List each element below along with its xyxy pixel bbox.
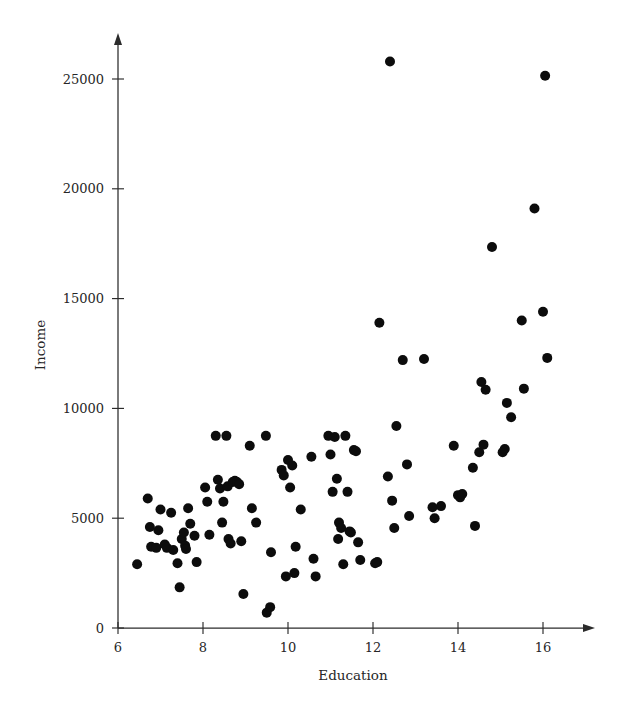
scatter-point xyxy=(419,354,429,364)
scatter-point xyxy=(251,518,261,528)
scatter-point xyxy=(387,496,397,506)
scatter-point xyxy=(530,204,540,214)
scatter-point xyxy=(156,504,166,514)
scatter-point xyxy=(340,431,350,441)
scatter-point xyxy=(183,503,193,513)
scatter-point xyxy=(517,316,527,326)
scatter-point xyxy=(346,527,356,537)
scatter-point xyxy=(385,56,395,66)
scatter-point xyxy=(470,521,480,531)
scatter-point xyxy=(218,497,228,507)
scatter-point xyxy=(372,557,382,567)
y-tick-label: 0 xyxy=(96,621,104,636)
x-tick-label: 16 xyxy=(535,640,552,655)
scatter-point xyxy=(391,421,401,431)
scatter-point xyxy=(192,557,202,567)
scatter-point xyxy=(287,461,297,471)
scatter-point xyxy=(502,398,512,408)
scatter-point xyxy=(402,459,412,469)
scatter-point xyxy=(238,589,248,599)
scatter-point xyxy=(309,554,319,564)
scatter-point xyxy=(306,452,316,462)
scatter-point xyxy=(151,543,161,553)
scatter-point xyxy=(479,440,489,450)
scatter-point xyxy=(428,502,438,512)
scatter-point xyxy=(374,318,384,328)
scatter-point xyxy=(204,530,214,540)
scatter-point xyxy=(311,571,321,581)
y-tick-label: 10000 xyxy=(63,401,104,416)
scatter-point xyxy=(291,542,301,552)
x-tick-label: 12 xyxy=(365,640,382,655)
scatter-point xyxy=(330,432,340,442)
scatter-point xyxy=(430,513,440,523)
y-tick-label: 15000 xyxy=(63,291,104,306)
scatter-point xyxy=(500,444,510,454)
scatter-point xyxy=(173,558,183,568)
scatter-point xyxy=(338,559,348,569)
scatter-point xyxy=(333,534,343,544)
x-tick-label: 10 xyxy=(280,640,297,655)
scatter-point xyxy=(226,538,236,548)
scatter-point xyxy=(355,555,365,565)
scatter-point xyxy=(538,307,548,317)
scatter-point xyxy=(145,522,155,532)
scatter-point xyxy=(200,482,210,492)
scatter-point xyxy=(296,504,306,514)
scatter-point xyxy=(179,527,189,537)
scatter-point xyxy=(404,511,414,521)
scatter-point xyxy=(247,503,257,513)
scatter-point xyxy=(353,537,363,547)
y-axis-title: Income xyxy=(32,320,48,371)
scatter-point xyxy=(285,482,295,492)
x-axis-title: Education xyxy=(318,667,388,683)
x-tick-label: 14 xyxy=(450,640,467,655)
scatter-point xyxy=(221,431,231,441)
scatter-point xyxy=(213,475,223,485)
x-axis-arrow-icon xyxy=(583,624,595,632)
scatter-point xyxy=(289,568,299,578)
scatter-point xyxy=(436,501,446,511)
scatter-point xyxy=(234,479,244,489)
scatter-point xyxy=(398,355,408,365)
scatter-point xyxy=(166,508,176,518)
scatter-point xyxy=(202,497,212,507)
y-tick-label: 25000 xyxy=(63,72,104,87)
scatter-point xyxy=(211,431,221,441)
scatter-point xyxy=(332,474,342,484)
scatter-point xyxy=(279,470,289,480)
scatter-point xyxy=(281,571,291,581)
data-points-layer xyxy=(132,56,552,617)
scatter-point xyxy=(519,384,529,394)
scatter-point xyxy=(540,71,550,81)
y-tick-label: 20000 xyxy=(63,181,104,196)
scatter-point xyxy=(468,463,478,473)
plot-canvas: 0500010000150002000025000 6810121416 Edu… xyxy=(0,0,617,728)
scatter-point xyxy=(383,471,393,481)
scatter-point xyxy=(153,525,163,535)
x-tick-label: 6 xyxy=(114,640,122,655)
scatter-point xyxy=(481,385,491,395)
x-tick-label: 8 xyxy=(199,640,207,655)
scatter-point xyxy=(175,582,185,592)
scatter-point xyxy=(261,431,271,441)
x-axis-ticks: 6810121416 xyxy=(114,622,551,655)
scatter-point xyxy=(487,242,497,252)
scatter-point xyxy=(326,450,336,460)
y-axis-arrow-icon xyxy=(114,33,122,45)
scatter-point xyxy=(265,602,275,612)
scatter-point xyxy=(457,489,467,499)
scatter-point xyxy=(506,412,516,422)
scatter-point xyxy=(266,547,276,557)
scatter-point xyxy=(181,544,191,554)
scatter-point xyxy=(132,559,142,569)
y-tick-label: 5000 xyxy=(71,511,104,526)
scatter-point xyxy=(328,487,338,497)
scatter-point xyxy=(190,531,200,541)
scatter-point xyxy=(168,545,178,555)
scatter-point xyxy=(143,493,153,503)
scatter-point xyxy=(343,487,353,497)
scatter-point xyxy=(245,441,255,451)
y-axis-ticks: 0500010000150002000025000 xyxy=(63,72,124,636)
scatter-point xyxy=(236,536,246,546)
